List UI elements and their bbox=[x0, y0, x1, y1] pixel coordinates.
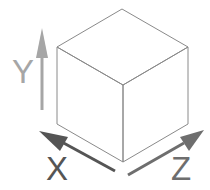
z-axis-label: Z bbox=[171, 152, 191, 185]
cube-top-face bbox=[57, 9, 188, 85]
x-axis-label: X bbox=[46, 152, 68, 185]
cube bbox=[57, 9, 188, 162]
y-axis-label: Y bbox=[12, 55, 34, 88]
y-axis-arrow bbox=[36, 28, 48, 110]
isometric-axes-diagram: Y X Z bbox=[0, 0, 210, 190]
